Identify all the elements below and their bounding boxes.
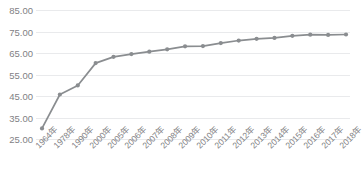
y-axis-tick-label: 75.00 [0,26,33,37]
data-point [165,47,169,51]
data-point [219,41,223,45]
x-axis: 1964年1978年1990年2000年2005年2006年2007年2008年… [36,140,350,185]
series-line-group [36,10,350,139]
data-point [290,34,294,38]
y-axis-tick-label: 25.00 [0,134,33,145]
data-point [272,36,276,40]
data-point [147,50,151,54]
plot-area [36,10,350,139]
data-point [111,55,115,59]
data-point [58,92,62,96]
data-point [308,33,312,37]
data-point [129,52,133,56]
data-point [344,32,348,36]
y-axis-tick-label: 55.00 [0,69,33,80]
y-axis-tick-label: 85.00 [0,5,33,16]
data-point [94,61,98,65]
data-point [237,38,241,42]
data-point [326,33,330,37]
series-markers [40,32,348,130]
data-point [254,37,258,41]
data-point [201,44,205,48]
y-axis-tick-label: 45.00 [0,91,33,102]
data-point [183,44,187,48]
data-point [76,83,80,87]
series-line [42,35,346,129]
y-axis-tick-label: 35.00 [0,112,33,123]
y-axis-tick-label: 65.00 [0,48,33,59]
